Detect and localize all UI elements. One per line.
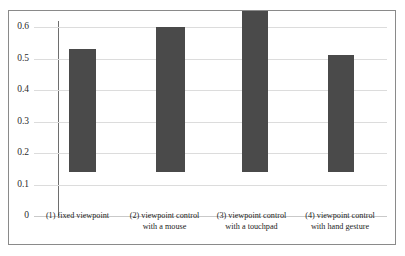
bar-3[interactable] xyxy=(242,11,268,172)
category-label-3: (3) viewpoint control with a touchpad xyxy=(208,210,295,232)
y-tick-label-0.4: 0.4 xyxy=(17,85,29,95)
category-label-4: (4) viewpoint control with hand gesture xyxy=(295,210,385,232)
category-label-2-line2: with a mouse xyxy=(121,221,208,232)
bar-4[interactable] xyxy=(328,55,354,172)
y-tick-label-0.1: 0.1 xyxy=(17,180,29,190)
plot-area: 0.6 0.5 0.4 0.3 0.2 0.1 0 xyxy=(34,17,387,208)
category-label-1: (1) fixed viewpoint xyxy=(34,210,121,221)
category-label-3-line1: (3) viewpoint control xyxy=(217,211,287,220)
bars-layer xyxy=(34,17,387,172)
category-label-4-line1: (4) viewpoint control xyxy=(305,211,375,220)
category-label-2-line1: (2) viewpoint control xyxy=(130,211,200,220)
y-tick-label-0: 0 xyxy=(24,211,29,221)
category-label-4-line2: with hand gesture xyxy=(295,221,385,232)
category-label-3-line2: with a touchpad xyxy=(208,221,295,232)
y-tick-label-0.2: 0.2 xyxy=(17,148,29,158)
y-tick-label-0.3: 0.3 xyxy=(17,117,29,127)
bar-1[interactable] xyxy=(69,49,96,172)
y-tick-label-0.6: 0.6 xyxy=(17,22,29,32)
category-axis: (1) fixed viewpoint (2) viewpoint contro… xyxy=(34,208,387,242)
y-tick-label-0.5: 0.5 xyxy=(17,54,29,64)
bar-chart-figure: 0.6 0.5 0.4 0.3 0.2 0.1 0 (1) fixed view… xyxy=(8,10,396,245)
category-label-1-line1: (1) fixed viewpoint xyxy=(46,211,109,220)
gridline-0.1: 0.1 xyxy=(34,185,387,186)
category-label-2: (2) viewpoint control with a mouse xyxy=(121,210,208,232)
bar-2[interactable] xyxy=(156,27,185,172)
